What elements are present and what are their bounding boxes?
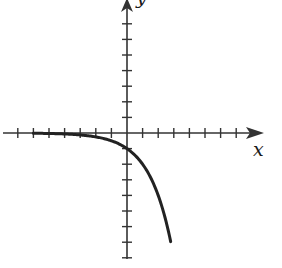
axes: [3, 0, 264, 259]
y-axis-label: y: [135, 0, 147, 8]
graph: x y: [0, 0, 282, 268]
x-axis-label: x: [253, 138, 264, 160]
function-curve: [33, 133, 170, 241]
